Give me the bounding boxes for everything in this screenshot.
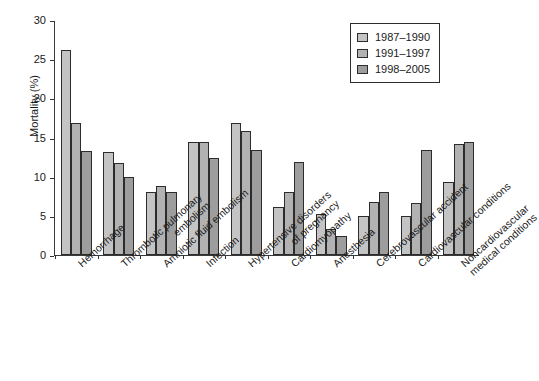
- legend-item: 1998–2005: [357, 61, 430, 77]
- legend-swatch-1991-1997: [357, 49, 368, 58]
- legend-swatch-1987-1990: [357, 33, 368, 42]
- y-axis-tick-label: 30: [22, 15, 46, 26]
- bar: [81, 151, 91, 255]
- y-axis-tick-mark: [50, 256, 54, 257]
- legend-item: 1991–1997: [357, 45, 430, 61]
- bar: [124, 177, 134, 255]
- bar-group: [55, 21, 98, 255]
- bar-group: [225, 21, 268, 255]
- chart-legend: 1987–19901991–19971998–2005: [350, 23, 440, 83]
- bar: [251, 150, 261, 255]
- legend-item-label: 1987–1990: [375, 32, 430, 43]
- y-axis-tick-label: 25: [22, 54, 46, 65]
- y-axis-tick-label: 0: [22, 250, 46, 261]
- legend-item-label: 1998–2005: [375, 64, 430, 75]
- y-axis-tick-label: 10: [22, 172, 46, 183]
- y-axis-tick-label: 15: [22, 133, 46, 144]
- bar: [421, 150, 431, 255]
- x-axis-tick-mark: [55, 255, 56, 259]
- legend-item-label: 1991–1997: [375, 48, 430, 59]
- legend-item: 1987–1990: [357, 29, 430, 45]
- y-axis-tick-label: 20: [22, 93, 46, 104]
- bar: [71, 123, 81, 255]
- bar: [61, 50, 71, 255]
- bar-group: [98, 21, 141, 255]
- y-axis-label: Mortality (%): [28, 26, 40, 186]
- legend-swatch-1998-2005: [357, 65, 368, 74]
- y-axis-tick-label: 5: [22, 211, 46, 222]
- bar: [464, 142, 474, 255]
